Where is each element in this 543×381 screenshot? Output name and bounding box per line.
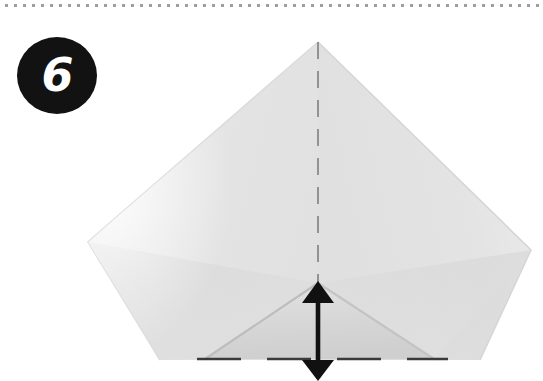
- arrow-head-down-icon: [302, 360, 334, 381]
- origami-diagram: [0, 0, 543, 381]
- origami-instruction-page: 6: [0, 0, 543, 381]
